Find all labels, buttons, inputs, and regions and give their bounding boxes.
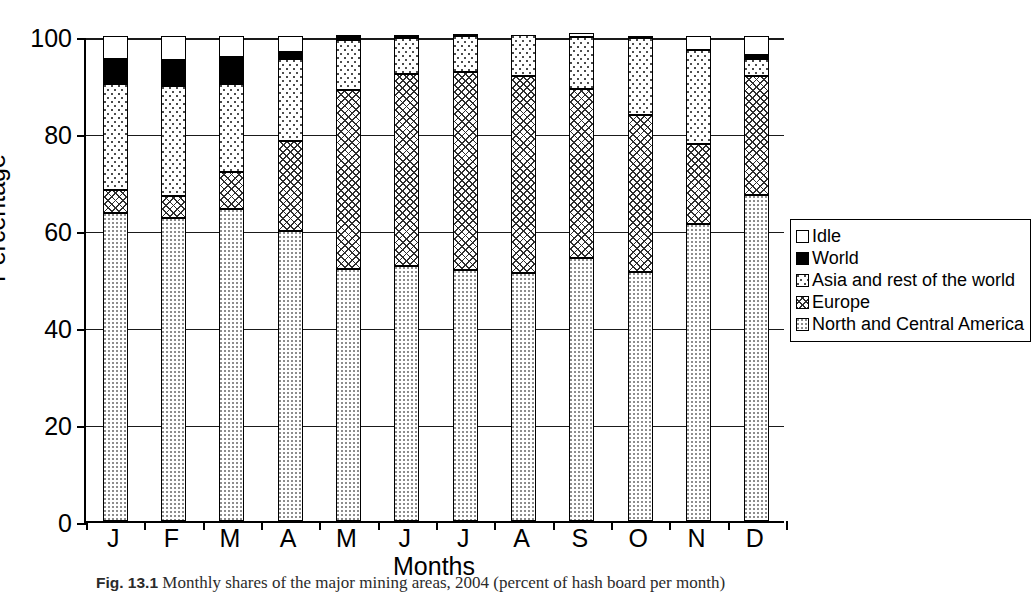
bar-segment-asia-and-rest-of-the-world: [569, 37, 594, 89]
x-tick-label: M: [336, 524, 357, 553]
bar-segment-idle: [686, 36, 711, 50]
x-tick-label: J: [107, 524, 120, 553]
y-tick-label: 20: [44, 412, 72, 441]
bar-j-5: [394, 36, 419, 521]
bar-segment-asia-and-rest-of-the-world: [686, 50, 711, 144]
bar-segment-asia-and-rest-of-the-world: [744, 59, 769, 76]
bar-segment-north-and-central-america: [628, 272, 653, 521]
legend-item-europe[interactable]: Europe: [796, 291, 1024, 313]
bar-j-6: [453, 36, 478, 521]
figure-caption: Fig. 13.1 Monthly shares of the major mi…: [96, 573, 956, 595]
legend-item-label: Idle: [812, 227, 841, 245]
bar-o-9: [628, 36, 653, 521]
bar-segment-north-and-central-america: [278, 231, 303, 521]
legend-item-world[interactable]: World: [796, 247, 1024, 269]
bar-a-7: [511, 36, 536, 521]
x-tick-label: D: [746, 524, 764, 553]
bar-segment-europe: [394, 74, 419, 266]
bar-segment-idle: [161, 36, 186, 60]
caption-text: Monthly shares of the major mining areas…: [162, 573, 725, 592]
bar-segment-north-and-central-america: [686, 224, 711, 521]
bar-segment-europe: [336, 90, 361, 269]
y-tick-mark: [77, 426, 86, 428]
legend-item-label: North and Central America: [812, 315, 1024, 333]
bar-segment-asia-and-rest-of-the-world: [103, 84, 128, 191]
x-tick-label: O: [628, 524, 647, 553]
gridline: [86, 426, 784, 427]
x-tick-label: M: [219, 524, 240, 553]
bar-segment-world: [278, 52, 303, 59]
bar-segment-asia-and-rest-of-the-world: [278, 59, 303, 141]
x-tick-label: N: [687, 524, 705, 553]
bar-segment-europe: [103, 190, 128, 213]
bar-f-1: [161, 36, 186, 521]
bar-segment-north-and-central-america: [453, 270, 478, 521]
bar-segment-europe: [569, 89, 594, 258]
bar-segment-world: [628, 36, 653, 38]
y-axis-labels: 020406080100: [0, 0, 84, 595]
legend-item-label: Asia and rest of the world: [812, 271, 1015, 289]
legend-item-label: World: [812, 249, 859, 267]
caption-figure-number: Fig. 13.1: [96, 574, 162, 591]
y-tick-mark: [77, 38, 86, 40]
x-tick-label: A: [513, 524, 530, 553]
bar-s-8: [569, 36, 594, 521]
bar-j-0: [103, 36, 128, 521]
legend-item-idle[interactable]: Idle: [796, 225, 1024, 247]
y-tick-label: 60: [44, 218, 72, 247]
x-axis-labels: JFMAMJJASOND: [84, 524, 784, 554]
bar-segment-north-and-central-america: [569, 258, 594, 521]
y-tick-label: 40: [44, 315, 72, 344]
bar-segment-world: [336, 35, 361, 40]
x-tick-label: J: [399, 524, 412, 553]
bar-segment-europe: [628, 115, 653, 272]
chart-legend: IdleWorldAsia and rest of the worldEurop…: [790, 219, 1031, 342]
gridline: [86, 232, 784, 233]
bar-segment-asia-and-rest-of-the-world: [628, 38, 653, 115]
gridline: [86, 135, 784, 136]
y-tick-label: 0: [58, 509, 72, 538]
bar-segment-asia-and-rest-of-the-world: [453, 36, 478, 72]
y-tick-mark: [77, 232, 86, 234]
gridline: [86, 38, 784, 40]
bar-segment-world: [394, 36, 419, 38]
y-tick-label: 80: [44, 121, 72, 150]
x-tick-mark: [786, 521, 788, 530]
y-tick-label: 100: [30, 24, 72, 53]
legend-swatch-icon: [796, 230, 809, 243]
bar-segment-asia-and-rest-of-the-world: [511, 35, 536, 76]
bar-segment-europe: [453, 72, 478, 270]
bar-segment-idle: [744, 36, 769, 55]
bar-segment-north-and-central-america: [161, 218, 186, 521]
bar-segment-idle: [103, 36, 128, 59]
legend-item-asia-and-rest-of-the-world[interactable]: Asia and rest of the world: [796, 269, 1024, 291]
bar-segment-idle: [394, 35, 419, 37]
legend-item-north-and-central-america[interactable]: North and Central America: [796, 313, 1024, 335]
x-tick-label: S: [571, 524, 588, 553]
bar-segment-north-and-central-america: [744, 195, 769, 521]
x-tick-label: A: [280, 524, 297, 553]
bar-segment-asia-and-rest-of-the-world: [336, 40, 361, 89]
bar-segment-world: [161, 60, 186, 86]
bar-segment-north-and-central-america: [336, 269, 361, 521]
bar-segment-north-and-central-america: [219, 209, 244, 521]
legend-swatch-icon: [796, 318, 809, 331]
bar-segment-world: [744, 55, 769, 59]
legend-item-label: Europe: [812, 293, 870, 311]
bar-segment-europe: [278, 141, 303, 231]
bar-segment-idle: [278, 36, 303, 52]
legend-swatch-icon: [796, 252, 809, 265]
bar-segment-idle: [219, 36, 244, 57]
bar-segment-world: [453, 34, 478, 36]
bar-n-10: [686, 36, 711, 521]
x-tick-label: F: [164, 524, 179, 553]
bar-segment-world: [219, 57, 244, 83]
bar-m-4: [336, 36, 361, 521]
bar-segment-asia-and-rest-of-the-world: [161, 86, 186, 196]
bar-segment-north-and-central-america: [103, 213, 128, 521]
bar-segment-world: [103, 59, 128, 84]
y-tick-mark: [77, 135, 86, 137]
bar-segment-europe: [744, 76, 769, 195]
bar-a-3: [278, 36, 303, 521]
